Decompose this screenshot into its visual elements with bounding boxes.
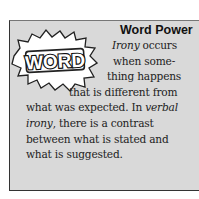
word-burst-icon: WORD bbox=[10, 26, 98, 92]
section-title: Word Power bbox=[120, 23, 193, 37]
text-line: Irony occurs bbox=[112, 38, 177, 54]
text-line: between what is stated and bbox=[26, 132, 169, 148]
text-line: thing happens bbox=[107, 69, 181, 85]
text-line: what is suggested. bbox=[26, 147, 123, 163]
word-badge: WORD bbox=[24, 49, 85, 73]
text-line: what was expected. In verbal bbox=[26, 100, 178, 116]
text-line: that is different from bbox=[69, 85, 177, 101]
text-line: irony, there is a contrast bbox=[26, 116, 154, 132]
text-line: when some- bbox=[113, 54, 175, 70]
